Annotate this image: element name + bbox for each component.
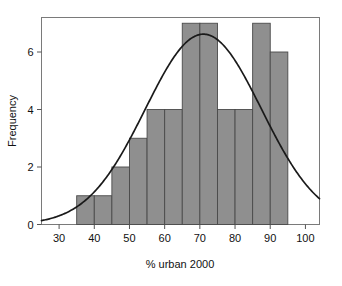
x-tick-label: 30 <box>53 232 65 244</box>
y-axis-label: Frequency <box>6 95 18 147</box>
y-tick-label: 2 <box>27 161 33 173</box>
x-tick-label: 40 <box>88 232 100 244</box>
x-tick-label: 50 <box>123 232 135 244</box>
histogram-bar <box>182 23 200 224</box>
y-tick-label: 6 <box>27 46 33 58</box>
x-tick-label: 80 <box>229 232 241 244</box>
x-axis-label: % urban 2000 <box>146 258 215 270</box>
histogram-figure: 30405060708090100 0246 % urban 2000 Freq… <box>0 0 342 286</box>
y-tick-label: 4 <box>27 104 33 116</box>
histogram-bar <box>235 110 253 225</box>
histogram-bar <box>94 196 112 225</box>
histogram-bar <box>200 23 218 224</box>
x-tick-label: 70 <box>194 232 206 244</box>
x-tick-label: 100 <box>296 232 314 244</box>
histogram-bar <box>112 167 130 225</box>
histogram-bar <box>129 138 147 224</box>
chart-canvas: 30405060708090100 0246 % urban 2000 Freq… <box>0 0 342 286</box>
x-tick-label: 60 <box>159 232 171 244</box>
histogram-bar <box>147 110 165 225</box>
histogram-bar <box>253 23 271 224</box>
y-tick-label: 0 <box>27 219 33 231</box>
histogram-bar <box>270 52 288 225</box>
histogram-bar <box>217 110 235 225</box>
histogram-bar <box>165 110 183 225</box>
x-tick-label: 90 <box>264 232 276 244</box>
